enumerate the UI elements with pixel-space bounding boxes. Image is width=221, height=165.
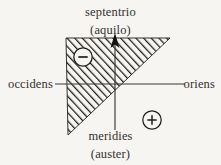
- label-east-oriens: oriens: [184, 78, 215, 91]
- label-west-occidens: occidens: [8, 78, 53, 91]
- minus-sign-marker: [74, 48, 92, 66]
- compass-sign-diagram: septentrio (aquilo) occidens oriens meri…: [0, 0, 221, 165]
- label-north-septentrio: septentrio: [0, 6, 221, 19]
- label-south-meridies: meridies: [0, 130, 221, 143]
- plus-sign-marker: [143, 111, 161, 129]
- label-south-auster: (auster): [0, 148, 221, 161]
- label-north-aquilo: (aquilo): [0, 24, 221, 37]
